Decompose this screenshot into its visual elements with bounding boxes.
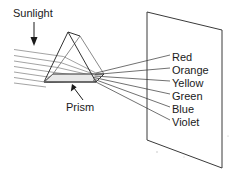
incoming-ray	[14, 83, 46, 87]
spectrum-label-orange: Orange	[172, 64, 209, 76]
diagram-canvas: Sunlight Prism Red Orange Yellow Green B…	[0, 0, 238, 178]
scan-speck	[184, 157, 185, 158]
scan-artifacts	[156, 135, 228, 157]
dispersed-ray-violet	[93, 81, 170, 121]
incoming-ray	[14, 67, 55, 73]
spectrum-label-blue: Blue	[172, 103, 194, 115]
prism-annotation: Prism	[66, 84, 94, 113]
spectrum-label-yellow: Yellow	[172, 77, 203, 89]
spectrum-label-group: Red Orange Yellow Green Blue Violet	[172, 51, 209, 128]
sunlight-label: Sunlight	[13, 7, 53, 19]
incoming-ray	[14, 50, 64, 57]
arrow-down-icon	[31, 37, 38, 46]
dispersed-ray-blue	[94, 79, 171, 107]
internal-ray	[61, 63, 96, 75]
prism-arrow-shaft	[74, 88, 83, 100]
dispersed-ray-orange	[95, 68, 170, 75]
prism-dispersion-diagram: Sunlight Prism Red Orange Yellow Green B…	[0, 0, 238, 178]
spectrum-label-violet: Violet	[172, 116, 199, 128]
spectrum-label-green: Green	[172, 90, 203, 102]
spectrum-label-red: Red	[172, 51, 192, 63]
dispersed-spectrum-rays	[93, 55, 170, 120]
dispersed-ray-red	[96, 55, 170, 73]
scan-speck	[156, 151, 157, 152]
internal-ray	[64, 57, 97, 74]
sunlight-annotation: Sunlight	[13, 7, 53, 46]
prism-label: Prism	[66, 101, 94, 113]
scan-speck	[227, 135, 228, 136]
incoming-ray	[14, 78, 49, 83]
incoming-ray	[14, 72, 52, 78]
